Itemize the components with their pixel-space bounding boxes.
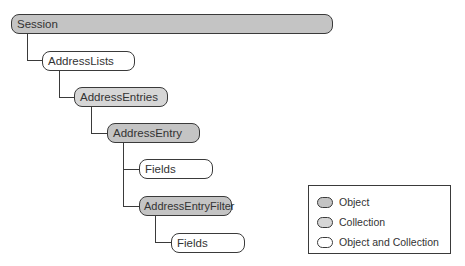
legend-item-object-and-collection: Object and Collection (317, 235, 439, 249)
node-addressentryfilter: AddressEntryFilter (139, 196, 232, 216)
node-addressentries: AddressEntries (74, 87, 168, 107)
object-swatch-icon (317, 197, 333, 208)
connector-addresslists-addressentries (59, 70, 75, 98)
connector-addressentries-addressentry (91, 107, 108, 134)
legend: Object Collection Object and Collection (308, 185, 451, 254)
node-addresslists: AddressLists (42, 51, 135, 71)
connector-session-addresslists (27, 33, 43, 61)
node-fields: Fields (139, 159, 213, 179)
legend-item-object: Object (317, 195, 369, 209)
legend-label: Object (339, 196, 369, 208)
connector-addressentryfilter-fields (155, 216, 172, 243)
node-addressentry: AddressEntry (107, 123, 200, 143)
collection-swatch-icon (317, 217, 333, 228)
object-and-collection-swatch-icon (317, 237, 333, 248)
node-filter-fields: Fields (171, 233, 245, 253)
legend-label: Object and Collection (339, 236, 439, 248)
legend-item-collection: Collection (317, 215, 385, 229)
connector-addressentry-addressentryfilter (123, 143, 140, 207)
legend-label: Collection (339, 216, 385, 228)
node-session: Session (11, 14, 333, 34)
